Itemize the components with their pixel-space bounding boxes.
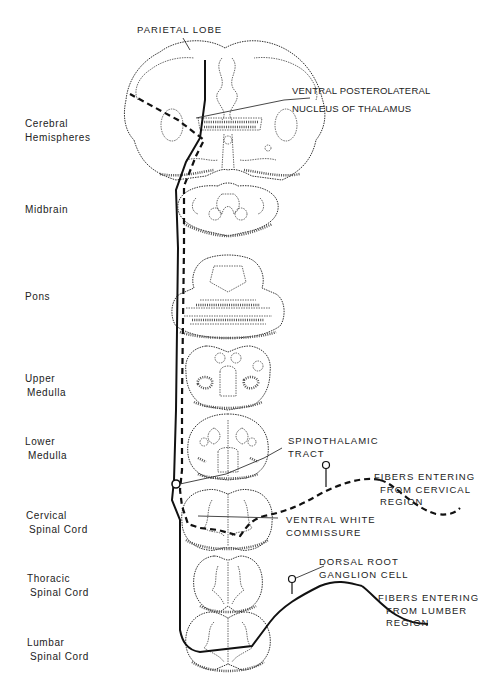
- label-line: NUCLEUS OF THALAMUS: [292, 102, 431, 116]
- midbrain-section: [178, 183, 278, 236]
- annotation-parietal-lobe: PARIETAL LOBE: [137, 23, 222, 37]
- neuroanatomy-figure: Cerebral Hemispheres Midbrain Pons Upper…: [0, 0, 497, 680]
- label-line: REGION: [378, 617, 479, 630]
- label-line: VENTRAL POSTEROLATERAL: [292, 84, 431, 98]
- level-label-cervical: Cervical Spinal Cord: [26, 509, 88, 537]
- lower-medulla-section: [188, 414, 269, 480]
- level-label-lumbar: Lumbar Spinal Cord: [27, 636, 89, 664]
- level-label-cerebral: Cerebral Hemispheres: [25, 117, 91, 145]
- synapse-marker: [172, 480, 180, 488]
- label-line: DORSAL ROOT: [319, 556, 409, 569]
- level-label-pons: Pons: [25, 290, 50, 304]
- level-label-midbrain: Midbrain: [25, 203, 68, 217]
- annotation-spinothalamic-tract: SPINOTHALAMIC TRACT: [288, 434, 379, 460]
- label-line: Medulla: [25, 449, 67, 463]
- label-line: VENTRAL WHITE: [286, 513, 376, 526]
- level-label-lower-medulla: Lower Medulla: [25, 435, 67, 463]
- label-line: Medulla: [25, 386, 66, 400]
- label-line: Hemispheres: [25, 131, 91, 145]
- label-line: GANGLION CELL: [319, 569, 409, 582]
- label-line: Cervical: [26, 509, 88, 523]
- label-line: Cerebral: [25, 117, 91, 131]
- upper-medulla-section: [186, 346, 271, 410]
- label-line: Upper: [25, 372, 66, 386]
- level-label-thoracic: Thoracic Spinal Cord: [27, 572, 89, 600]
- label-line: Spinal Cord: [27, 586, 89, 600]
- label-line: SPINOTHALAMIC: [288, 434, 379, 447]
- annotation-ventral-white-commissure: VENTRAL WHITE COMMISSURE: [286, 513, 376, 539]
- annotation-dorsal-root-ganglion: DORSAL ROOT GANGLION CELL: [319, 556, 409, 581]
- label-line: FROM CERVICAL: [374, 484, 475, 497]
- label-line: TRACT: [288, 447, 379, 460]
- label-line: Pons: [25, 290, 50, 304]
- label-line: Thoracic: [27, 572, 89, 586]
- label-line: FIBERS ENTERING: [378, 592, 479, 605]
- label-line: Spinal Cord: [27, 650, 89, 664]
- cervical-cord-section: [182, 489, 273, 550]
- label-line: Lower: [25, 435, 67, 449]
- lumbar-ganglion-cell-icon: [289, 576, 296, 595]
- label-line: FIBERS ENTERING: [374, 471, 475, 484]
- label-line: REGION: [374, 496, 475, 509]
- level-label-upper-medulla: Upper Medulla: [25, 372, 66, 400]
- cervical-ganglion-cell-icon: [323, 462, 330, 488]
- lumbar-cord-section: [186, 612, 271, 671]
- label-line: FROM LUMBER: [378, 605, 479, 618]
- label-line: COMMISSURE: [286, 526, 376, 539]
- label-line: Midbrain: [25, 203, 68, 217]
- label-line: Spinal Cord: [26, 523, 88, 537]
- annotation-vpl: VENTRAL POSTEROLATERAL NUCLEUS OF THALAM…: [292, 84, 431, 116]
- thoracic-cord-section: [194, 556, 263, 612]
- annotation-cervical-fibers: FIBERS ENTERING FROM CERVICAL REGION: [374, 471, 475, 509]
- label-line: Lumbar: [27, 636, 89, 650]
- annotation-lumbar-fibers: FIBERS ENTERING FROM LUMBER REGION: [378, 592, 479, 630]
- pons-section: [172, 255, 284, 338]
